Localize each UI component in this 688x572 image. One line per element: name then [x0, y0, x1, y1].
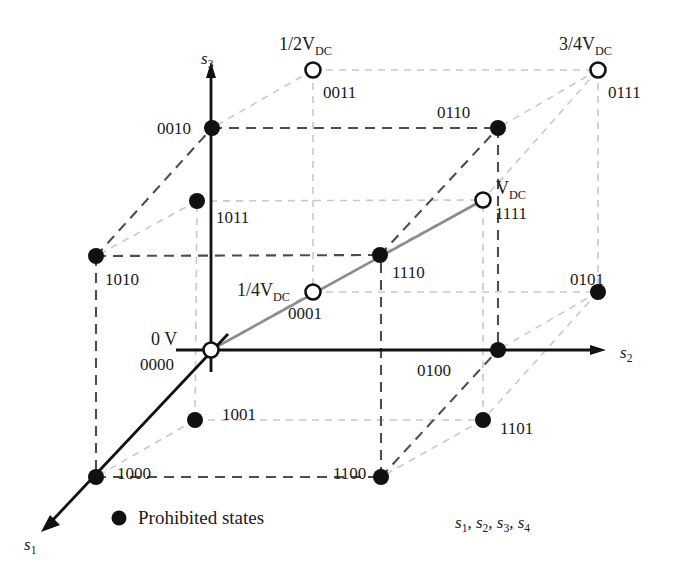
edge-0011-0010: [212, 70, 313, 128]
node-0111[interactable]: [591, 63, 606, 78]
node-label-1000: 1000: [117, 465, 151, 482]
voltage-label-v100: VDC: [496, 179, 526, 201]
node-0011[interactable]: [306, 63, 321, 78]
voltage-path: [211, 200, 483, 350]
edge-1101-1100: [381, 420, 483, 477]
axis-label-s2: s2: [620, 344, 632, 365]
edge-1001-1011: [195, 201, 197, 420]
edge-1010-0010: [96, 128, 212, 256]
node-label-0001: 0001: [288, 305, 322, 322]
voltage-label-v050: 1/2VDC: [279, 35, 332, 57]
node-1010[interactable]: [88, 248, 104, 264]
legend-label: Prohibited states: [138, 508, 264, 527]
node-label-1111: 1111: [495, 205, 527, 222]
axis-label-s1: s1: [24, 536, 36, 557]
axes-lines: [41, 62, 606, 532]
voltage-label-v025: 1/4VDC: [237, 281, 290, 303]
edge-1011-1010: [96, 201, 197, 256]
node-label-1011: 1011: [216, 209, 249, 226]
legend-marker-icon: [112, 511, 127, 526]
node-0100[interactable]: [490, 342, 506, 358]
node-1101[interactable]: [475, 412, 491, 428]
node-0010[interactable]: [204, 120, 220, 136]
edge-1010-1110: [96, 255, 380, 256]
node-1110[interactable]: [372, 247, 388, 263]
gray-diagonal: [211, 200, 483, 350]
node-1000[interactable]: [88, 469, 104, 485]
axis-s2-arrowhead: [590, 345, 606, 355]
edge-0111-0110: [498, 70, 598, 128]
voltage-label-v075: 3/4VDC: [559, 35, 612, 57]
edge-1011-1111: [197, 200, 483, 201]
node-label-1110: 1110: [392, 264, 425, 281]
axis-label-s3: s3: [201, 50, 213, 71]
node-label-1101: 1101: [500, 420, 533, 437]
node-1011[interactable]: [189, 193, 205, 209]
node-label-0101: 0101: [570, 271, 604, 288]
edge-1110-0110: [380, 128, 498, 255]
node-label-1010: 1010: [105, 271, 139, 288]
axis-s1-arrowhead: [41, 515, 60, 532]
axis-s1-line: [50, 334, 228, 523]
node-label-0010: 0010: [157, 120, 191, 137]
node-0001[interactable]: [306, 285, 321, 300]
node-label-0110: 0110: [437, 104, 470, 121]
node-0000[interactable]: [204, 343, 219, 358]
node-label-0111: 0111: [608, 84, 641, 101]
state-vector-caption: s1, s2, s3, s4: [455, 514, 530, 535]
node-0110[interactable]: [490, 120, 506, 136]
node-1001[interactable]: [187, 412, 203, 428]
node-label-1100: 1100: [333, 465, 366, 482]
node-label-0011: 0011: [323, 84, 356, 101]
voltage-label-v0: 0 V: [151, 330, 177, 348]
edge-0101-0100: [498, 292, 598, 350]
node-label-0000: 0000: [140, 356, 174, 373]
node-1111[interactable]: [476, 193, 491, 208]
node-label-1001: 1001: [222, 406, 256, 423]
node-label-0100: 0100: [417, 362, 451, 379]
node-1100[interactable]: [373, 469, 389, 485]
